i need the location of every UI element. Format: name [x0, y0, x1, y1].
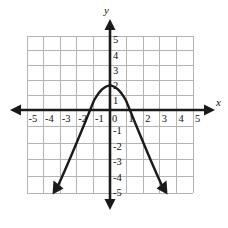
x-tick-labels: -5 -4 -3 -2 -1 0 1 2 3 4 5	[29, 113, 201, 124]
y-tick-label: 5	[113, 34, 118, 45]
x-tick-label: -2	[78, 113, 87, 124]
x-tick-label: -5	[29, 113, 38, 124]
x-tick-label: -4	[45, 113, 54, 124]
y-tick-label: 4	[113, 50, 119, 61]
x-axis-label: x	[215, 96, 221, 108]
x-axis-right-arrowhead	[204, 105, 215, 116]
x-tick-label: -1	[95, 113, 104, 124]
x-tick-label: 1	[129, 113, 134, 124]
parabola-left-arrowhead	[53, 181, 64, 195]
y-tick-label: -1	[113, 125, 122, 136]
x-tick-label: 4	[178, 113, 184, 124]
graph-figure: -5 -4 -3 -2 -1 0 1 2 3 4 5 5 4 3 2 1 -1 …	[0, 0, 228, 228]
y-axis-label: y	[103, 4, 109, 16]
y-tick-label: 1	[113, 95, 118, 106]
y-tick-label: 3	[113, 65, 118, 76]
y-axis-bottom-arrowhead	[105, 199, 116, 210]
y-tick-label: -3	[113, 156, 122, 167]
parabola-right-arrowhead	[157, 181, 168, 195]
origin-label: 0	[112, 113, 117, 124]
coordinate-plane-svg: -5 -4 -3 -2 -1 0 1 2 3 4 5 5 4 3 2 1 -1 …	[0, 0, 228, 228]
y-tick-label: 2	[113, 80, 118, 91]
y-tick-labels-positive: 5 4 3 2 1	[113, 34, 119, 106]
x-tick-label: -3	[62, 113, 71, 124]
x-tick-label: 5	[195, 113, 200, 124]
y-tick-labels-negative: -1 -2 -3 -4 -5	[113, 125, 122, 198]
y-tick-label: -4	[113, 172, 122, 183]
y-tick-label: -5	[113, 187, 122, 198]
y-tick-label: -2	[113, 141, 122, 152]
x-axis-left-arrowhead	[10, 105, 21, 116]
y-axis-top-arrowhead	[105, 19, 116, 30]
x-tick-label: 3	[162, 113, 167, 124]
x-tick-label: 2	[145, 113, 150, 124]
